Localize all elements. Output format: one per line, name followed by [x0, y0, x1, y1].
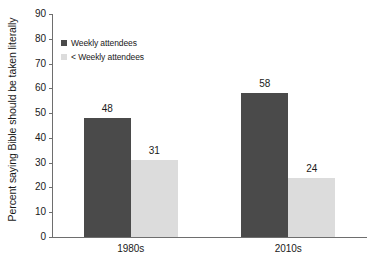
y-axis-tick: 60 [0, 88, 52, 89]
bar-1980s-series-2: 31 [131, 160, 178, 237]
y-axis-tick: 20 [0, 187, 52, 188]
y-axis-tick-label: 20 [35, 180, 46, 193]
y-axis-tick: 90 [0, 14, 52, 15]
y-axis-tick-label: 90 [35, 7, 46, 20]
y-axis-tick-label: 80 [35, 32, 46, 45]
y-axis-tick-label: 0 [40, 230, 46, 243]
y-axis-tick: 40 [0, 138, 52, 139]
x-axis-label: 2010s [248, 243, 328, 254]
bar-value-label: 58 [259, 78, 270, 89]
bar-value-label: 31 [149, 145, 160, 156]
y-axis-tick-label: 40 [35, 131, 46, 144]
y-axis-tick: 70 [0, 64, 52, 65]
y-axis-tick: 10 [0, 212, 52, 213]
x-axis-line [52, 237, 367, 238]
bar-chart: Percent saying Bible should be taken lit… [0, 0, 371, 277]
y-axis-tick: 50 [0, 113, 52, 114]
bar-1980s-series-1: 48 [84, 118, 131, 237]
x-axis-label: 1980s [91, 243, 171, 254]
y-axis-tick: 80 [0, 39, 52, 40]
y-axis-tick-label: 70 [35, 57, 46, 70]
y-axis-tick-label: 30 [35, 156, 46, 169]
y-axis-tick: 0 [0, 237, 52, 238]
y-axis-tick-label: 50 [35, 106, 46, 119]
bar-2010s-series-1: 58 [241, 93, 288, 237]
bar-value-label: 48 [102, 103, 113, 114]
y-axis-tick-mark [49, 237, 52, 238]
y-axis-tick: 30 [0, 163, 52, 164]
bar-2010s-series-2: 24 [288, 178, 335, 237]
plot-area: 48315824 [52, 14, 367, 237]
y-axis-tick-label: 10 [35, 205, 46, 218]
y-axis-tick-label: 60 [35, 81, 46, 94]
bar-value-label: 24 [306, 163, 317, 174]
